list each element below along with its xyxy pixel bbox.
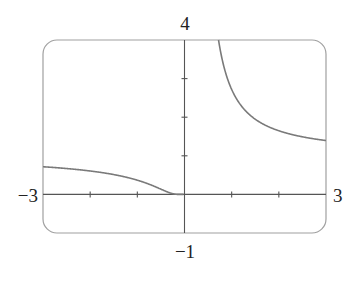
axes <box>43 40 326 233</box>
y-max-label: 4 <box>180 13 190 34</box>
curve-right-branch <box>219 40 326 141</box>
x-min-label: −3 <box>18 185 38 206</box>
x-max-label: 3 <box>333 185 343 206</box>
y-min-label: −1 <box>175 241 195 262</box>
curve-left-branch <box>43 167 184 195</box>
function-graph: 4 −1 −3 3 <box>0 0 346 281</box>
